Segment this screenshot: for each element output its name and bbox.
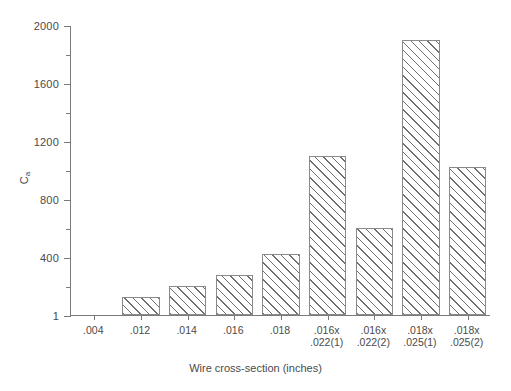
x-axis-tick-label: .018x.025(1): [397, 324, 444, 348]
y-axis-minor-tick: [66, 113, 71, 114]
y-axis-title-subscript: a: [23, 172, 32, 176]
y-axis-title-base: C: [18, 176, 30, 184]
bar: [262, 254, 299, 315]
x-tick-label-line1: .018x: [454, 324, 480, 336]
x-axis-tick-label: .018: [257, 324, 304, 336]
x-axis-tick-label: .018x.025(2): [443, 324, 490, 348]
x-axis-tick: [94, 315, 95, 320]
bar: [169, 286, 206, 315]
x-axis-tick-label: .016: [210, 324, 257, 336]
y-axis-tick-label: 1200: [34, 136, 59, 148]
x-tick-label-line1: .018x: [407, 324, 433, 336]
y-axis-minor-tick: [66, 287, 71, 288]
y-axis-tick-label: 800: [40, 194, 59, 206]
bar: [402, 40, 439, 315]
x-axis-tick: [421, 315, 422, 320]
x-axis-tick-label: .014: [163, 324, 210, 336]
x-axis-title: Wire cross-section (inches): [0, 362, 511, 374]
bar: [356, 228, 393, 315]
x-axis-tick-label: .004: [70, 324, 117, 336]
x-axis-tick: [141, 315, 142, 320]
x-axis-tick: [234, 315, 235, 320]
x-tick-label-line1: .018: [270, 324, 290, 336]
y-axis-minor-tick: [66, 229, 71, 230]
y-axis-tick: [64, 200, 71, 201]
chart-figure: Ca .004.012.014.016.018.016x.022(1).016x…: [0, 0, 511, 391]
plot-area: [70, 26, 490, 316]
x-tick-label-line2: .022(1): [303, 336, 350, 348]
x-tick-label-line2: .022(2): [350, 336, 397, 348]
y-axis-minor-tick: [66, 55, 71, 56]
bar: [122, 297, 159, 315]
y-axis-tick: [64, 258, 71, 259]
x-tick-label-line1: .014: [176, 324, 196, 336]
x-axis-tick: [468, 315, 469, 320]
y-axis-title: Ca: [18, 172, 30, 184]
y-axis-tick: [64, 142, 71, 143]
bar: [309, 156, 346, 315]
x-axis-tick: [188, 315, 189, 320]
y-axis-tick: [64, 84, 71, 85]
y-axis-minor-tick: [66, 171, 71, 172]
y-axis-tick-label: 1600: [34, 78, 59, 90]
x-axis-tick: [328, 315, 329, 320]
y-axis-tick: [64, 316, 71, 317]
x-axis-tick: [281, 315, 282, 320]
bar: [216, 275, 253, 315]
y-axis-tick-label: 1: [53, 310, 59, 322]
x-axis-tick-label: .012: [117, 324, 164, 336]
y-axis-tick-label: 2000: [34, 20, 59, 32]
x-axis-tick-label: .016x.022(2): [350, 324, 397, 348]
y-axis-tick-label: 400: [40, 252, 59, 264]
x-axis-tick-label: .016x.022(1): [303, 324, 350, 348]
x-tick-label-line1: .016x: [314, 324, 340, 336]
x-tick-label-line2: .025(1): [397, 336, 444, 348]
y-axis-tick: [64, 26, 71, 27]
x-tick-label-line1: .016: [223, 324, 243, 336]
x-tick-label-line2: .025(2): [443, 336, 490, 348]
x-axis-tick: [374, 315, 375, 320]
x-tick-label-line1: .004: [83, 324, 103, 336]
x-tick-label-line1: .016x: [360, 324, 386, 336]
bar: [449, 167, 486, 315]
x-tick-label-line1: .012: [130, 324, 150, 336]
